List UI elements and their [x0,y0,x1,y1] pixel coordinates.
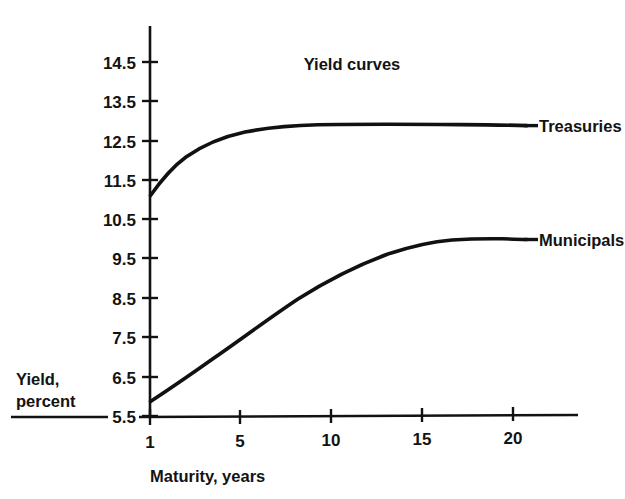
chart-figure: 14.5 13.5 12.5 11.5 10.5 9.5 8.5 7.5 6.5… [0,0,625,499]
x-tick-label: 10 [322,431,341,450]
x-tick-label: 20 [504,429,523,448]
y-tick-label: 11.5 [104,172,136,191]
y-axis-title-line2: percent [16,392,76,410]
x-tick-label: 15 [413,430,432,449]
x-axis-title: Maturity, years [150,467,265,485]
x-tick-label: 5 [235,432,244,451]
y-tick-label: 5.5 [112,408,136,427]
chart-title: Yield curves [304,55,401,73]
y-tick-label: 7.5 [112,329,136,348]
series-curve-municipals [151,239,528,402]
series-label-municipals-group: Municipals [524,231,624,249]
y-tick-label: 14.5 [103,54,136,73]
series-curve-treasuries [151,124,528,195]
y-tick-label: 10.5 [103,211,136,230]
y-tick-label: 9.5 [112,250,136,269]
series-label-treasuries-group: Treasuries [524,117,622,135]
y-tick-label: 6.5 [112,369,136,388]
x-tick-label: 1 [145,433,154,452]
y-axis-title-line1: Yield, [16,370,59,388]
y-tick-label: 12.5 [103,133,136,152]
yield-curves-chart: 14.5 13.5 12.5 11.5 10.5 9.5 8.5 7.5 6.5… [0,0,625,499]
series-label-municipals: Municipals [539,231,624,249]
x-axis-tick-labels: 1 5 10 15 20 [145,429,522,452]
y-tick-label: 13.5 [103,93,136,112]
y-axis-tick-labels: 14.5 13.5 12.5 11.5 10.5 9.5 8.5 7.5 6.5… [103,54,136,427]
series-label-treasuries: Treasuries [539,117,622,135]
y-tick-label: 8.5 [112,290,136,309]
